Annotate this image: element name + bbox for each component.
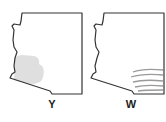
- panel-label: Y: [42, 98, 62, 110]
- map-panel-y: Y: [0, 0, 83, 122]
- state-border: [10, 13, 82, 94]
- panel-label: W: [121, 98, 141, 110]
- shaded-region: [14, 55, 44, 84]
- shaded-lines: [131, 69, 163, 91]
- state-border: [91, 13, 164, 94]
- map-panel-w: W: [83, 0, 166, 122]
